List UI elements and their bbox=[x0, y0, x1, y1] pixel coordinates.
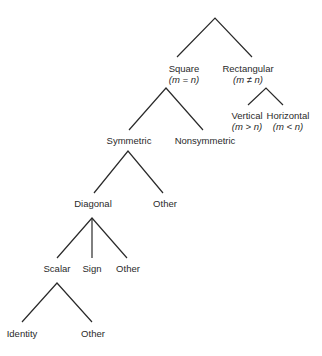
node-symmetric: Symmetric bbox=[107, 135, 152, 146]
node-other-diagonal: Other bbox=[116, 263, 140, 274]
node-label: Diagonal bbox=[74, 198, 112, 209]
node-sign: Sign bbox=[82, 263, 101, 274]
node-label: Identity bbox=[7, 328, 38, 339]
node-nonsymmetric: Nonsymmetric bbox=[175, 135, 236, 146]
node-diagonal: Diagonal bbox=[74, 198, 112, 209]
node-condition: (m < n) bbox=[267, 121, 310, 132]
node-label: Symmetric bbox=[107, 135, 152, 146]
edge-root bbox=[177, 18, 252, 57]
node-other-symmetric: Other bbox=[153, 198, 177, 209]
node-label: Other bbox=[81, 328, 105, 339]
node-condition: (m = n) bbox=[169, 74, 200, 85]
edge-symmetric bbox=[94, 151, 163, 193]
node-label: Rectangular bbox=[222, 63, 273, 74]
node-horizontal: Horizontal (m < n) bbox=[267, 110, 310, 132]
node-rectangular: Rectangular (m ≠ n) bbox=[222, 63, 273, 85]
node-label: Horizontal bbox=[267, 110, 310, 121]
edge-rectangular bbox=[248, 88, 283, 105]
node-square: Square (m = n) bbox=[169, 63, 200, 85]
tree-edges bbox=[0, 0, 322, 356]
node-label: Sign bbox=[82, 263, 101, 274]
node-condition: (m ≠ n) bbox=[222, 74, 273, 85]
node-label: Other bbox=[153, 198, 177, 209]
node-scalar: Scalar bbox=[44, 263, 71, 274]
node-label: Other bbox=[116, 263, 140, 274]
node-vertical: Vertical (m > n) bbox=[231, 110, 262, 132]
edge-square bbox=[129, 88, 203, 130]
node-identity: Identity bbox=[7, 328, 38, 339]
node-condition: (m > n) bbox=[231, 121, 262, 132]
node-other-scalar: Other bbox=[81, 328, 105, 339]
node-label: Square bbox=[169, 63, 200, 74]
edge-scalar bbox=[22, 283, 92, 322]
node-label: Nonsymmetric bbox=[175, 135, 236, 146]
node-label: Scalar bbox=[44, 263, 71, 274]
node-label: Vertical bbox=[231, 110, 262, 121]
